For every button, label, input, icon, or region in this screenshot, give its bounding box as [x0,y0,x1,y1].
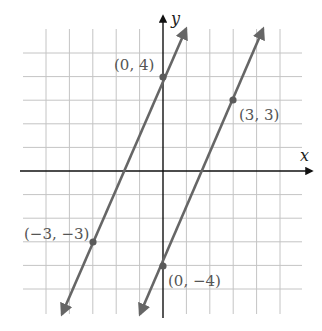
coordinate-plane: x y (0, 4) (−3, −3) (3, 3) (0, −4) [0,0,322,331]
point-0-neg4 [159,262,166,269]
point-0-4 [159,73,166,80]
label-point-3-3: (3, 3) [239,106,279,124]
point-neg3-neg3 [89,238,96,245]
label-point-0-neg4: (0, −4) [168,272,221,290]
x-axis-label: x [300,146,309,165]
label-point-0-4: (0, 4) [114,56,154,74]
point-3-3 [229,96,236,103]
label-point-neg3-neg3: (−3, −3) [24,225,89,243]
y-axis-label: y [170,9,181,28]
